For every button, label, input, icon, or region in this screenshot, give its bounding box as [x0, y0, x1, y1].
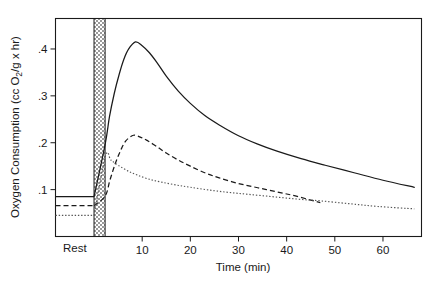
- x-tick-label: 60: [377, 244, 390, 256]
- y-tick-label: .4: [38, 43, 48, 55]
- x-tick-label: 10: [136, 244, 149, 256]
- y-tick-label: .2: [38, 137, 48, 149]
- y-tick-label: .1: [38, 184, 48, 196]
- x-tick-label: 40: [280, 244, 293, 256]
- x-axis-title: Time (min): [216, 261, 271, 273]
- chart-svg: .1.2.3.4 102030405060 Rest Time (min) Ox…: [0, 0, 440, 287]
- chart-figure: .1.2.3.4 102030405060 Rest Time (min) Ox…: [0, 0, 440, 287]
- x-tick-label: 30: [232, 244, 245, 256]
- y-tick-label: .3: [38, 90, 48, 102]
- rest-region-label: Rest: [63, 242, 87, 254]
- x-tick-label: 50: [328, 244, 341, 256]
- x-tick-label: 20: [184, 244, 197, 256]
